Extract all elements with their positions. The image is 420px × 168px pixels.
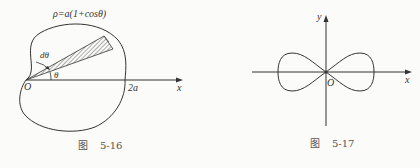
caption-number: 5-16 [100,140,122,151]
origin-label: O [327,77,334,88]
intercept-label: 2a [128,82,138,93]
y-axis-arrow-icon [324,15,329,22]
caption-prefix: 图 [78,140,88,151]
origin-label: O [24,81,31,92]
figure-5-16: ρ=a(1+cosθ) dθ θ O 2a x 图 5-16 [20,8,183,151]
figure-5-17: y O x 图 5-17 [252,11,412,149]
theta-arc [50,72,51,80]
y-axis-label: y [316,11,322,22]
theta-label: θ [54,70,59,80]
x-axis-label: x [404,74,410,85]
cardioid-curve [20,24,126,131]
figures-canvas: ρ=a(1+cosθ) dθ θ O 2a x 图 5-16 y O x 图 5… [0,0,420,168]
x-axis-label: x [176,82,182,93]
caption-number: 5-17 [332,138,354,149]
curve-label: ρ=a(1+cosθ) [52,8,107,20]
caption-prefix: 图 [310,138,320,149]
dtheta-label: dθ [40,50,50,60]
